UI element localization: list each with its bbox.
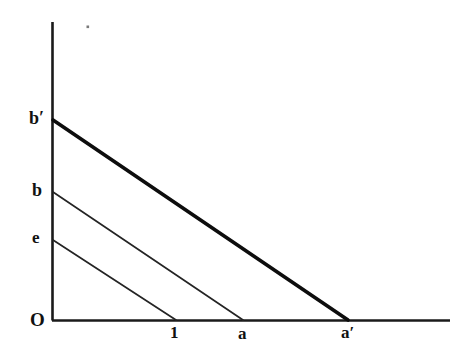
x-intercept-label-aprime: a′ — [341, 324, 354, 341]
figure-canvas — [0, 0, 469, 353]
y-intercept-label-b: b — [32, 181, 42, 199]
origin-label: O — [30, 310, 45, 329]
y-intercept-label-bprime: b′ — [29, 109, 44, 127]
y-intercept-label-e: e — [32, 229, 40, 246]
budget-line-bprime-aprime — [53, 120, 348, 320]
x-intercept-label-a: a — [238, 325, 247, 342]
scan-speck-artifact — [87, 26, 90, 29]
budget-line-e-one — [53, 240, 176, 320]
budget-line-figure: O b′ b e 1 a a′ — [0, 0, 469, 353]
x-intercept-label-one: 1 — [170, 324, 179, 341]
